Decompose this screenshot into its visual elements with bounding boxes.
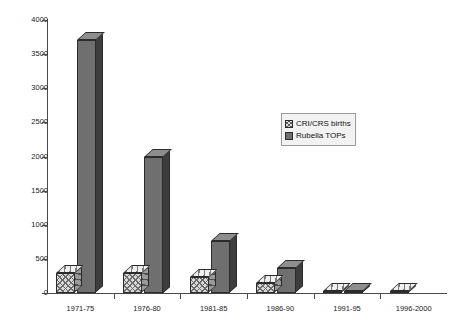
bar-1981-85-cri-crs-births — [190, 277, 209, 293]
x-tick-label: 1996-2000 — [379, 304, 449, 313]
bar-side-face — [429, 284, 437, 293]
x-tick-mark — [247, 293, 248, 299]
y-tick-mark — [42, 122, 48, 123]
bar-front-face — [323, 291, 342, 293]
legend-item-cri-crs-births: CRI/CRS births — [285, 118, 351, 129]
legend-label: Rubella TOPs — [296, 131, 346, 140]
bar-top-face — [390, 283, 418, 291]
bar-1991-95-cri-crs-births — [323, 291, 342, 293]
y-tick: 3500 — [0, 50, 48, 58]
y-tick-mark — [42, 20, 48, 21]
y-tick: 1000 — [0, 221, 48, 229]
chart-legend: CRI/CRS births Rubella TOPs — [281, 113, 356, 146]
x-tick-mark — [380, 293, 381, 299]
bar-front-face — [56, 273, 75, 293]
y-tick-mark — [42, 293, 48, 294]
bar-side-face — [95, 34, 103, 293]
x-tick-label: 1976-80 — [112, 304, 182, 313]
x-tick-label: 1986-90 — [245, 304, 315, 313]
bar-front-face — [77, 40, 96, 293]
x-tick-mark — [314, 293, 315, 299]
y-tick: 1500 — [0, 187, 48, 195]
legend-label: CRI/CRS births — [296, 119, 351, 128]
legend-swatch-hatched-icon — [285, 120, 293, 128]
bar-1976-80-cri-crs-births — [123, 273, 142, 293]
bar-1991-95-rubella-tops — [344, 291, 363, 293]
y-tick: 500 — [0, 255, 48, 263]
y-tick: 4000 — [0, 16, 48, 24]
y-tick: 2000 — [0, 153, 48, 161]
legend-item-rubella-tops: Rubella TOPs — [285, 130, 351, 141]
y-tick: 3000 — [0, 84, 48, 92]
y-tick-mark — [42, 88, 48, 89]
bar-1971-75-rubella-tops — [77, 40, 96, 293]
y-tick-mark — [42, 157, 48, 158]
bar-front-face — [344, 291, 363, 293]
bar-front-face — [190, 277, 209, 293]
bar-front-face — [256, 283, 275, 293]
bar-chart: 05001000150020002500300035004000 1971-75… — [0, 0, 456, 326]
legend-swatch-solid-icon — [285, 132, 293, 140]
x-tick-label: 1991-95 — [312, 304, 382, 313]
bar-front-face — [390, 291, 409, 293]
bar-1996-2000-cri-crs-births — [390, 291, 409, 293]
bar-side-face — [162, 150, 170, 293]
x-tick-label: 1981-85 — [179, 304, 249, 313]
bar-front-face — [123, 273, 142, 293]
y-tick-mark — [42, 54, 48, 55]
y-tick: 2500 — [0, 118, 48, 126]
x-tick-label: 1971-75 — [45, 304, 115, 313]
y-tick: 0 — [0, 289, 48, 297]
bar-side-face — [229, 234, 237, 293]
x-tick-mark — [180, 293, 181, 299]
y-tick-mark — [42, 259, 48, 260]
bar-1971-75-cri-crs-births — [56, 273, 75, 293]
bar-1986-90-cri-crs-births — [256, 283, 275, 293]
y-tick-mark — [42, 225, 48, 226]
x-tick-mark — [114, 293, 115, 299]
y-tick-mark — [42, 191, 48, 192]
